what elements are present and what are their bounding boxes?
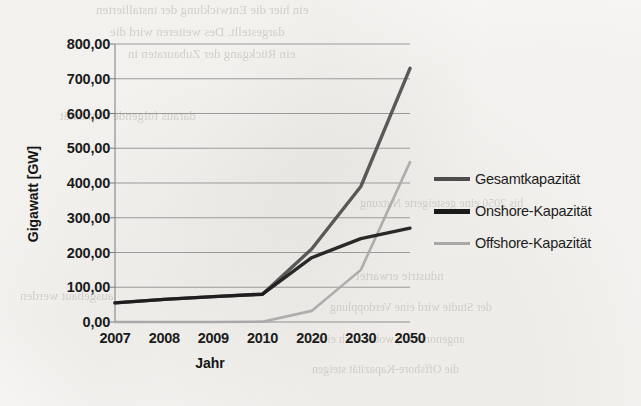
- scanned-page: ein hier die Entwicklung der installiert…: [0, 0, 641, 406]
- y-axis-tick-label: 300,00: [0, 210, 110, 226]
- x-axis-tick-label: 2009: [186, 330, 240, 346]
- series-line-onshore-kapazit-t: [115, 228, 410, 303]
- y-axis-tick-label: 800,00: [0, 36, 110, 52]
- legend-item: Onshore-Kapazität: [434, 195, 592, 227]
- legend-item-label: Gesamtkapazität: [475, 171, 580, 187]
- x-axis-title: Jahr: [0, 355, 420, 371]
- y-axis-tick-label: 100,00: [0, 279, 110, 295]
- legend-color-swatch: [434, 177, 470, 181]
- y-axis-tick-label: 0,00: [0, 314, 110, 330]
- x-axis-tick-label: 2030: [334, 330, 388, 346]
- y-axis-tick-label: 700,00: [0, 71, 110, 87]
- y-axis-tick-label: 400,00: [0, 175, 110, 191]
- chart-legend: GesamtkapazitätOnshore-KapazitätOffshore…: [434, 163, 592, 259]
- y-axis-title: Gigawatt [GW]: [25, 114, 41, 274]
- y-axis-tick-label: 600,00: [0, 106, 110, 122]
- legend-item-label: Offshore-Kapazität: [475, 235, 591, 251]
- legend-item: Offshore-Kapazität: [434, 227, 592, 259]
- y-axis-tick-label: 200,00: [0, 245, 110, 261]
- series-line-offshore-kapazit-t: [115, 162, 410, 322]
- legend-item-label: Onshore-Kapazität: [475, 203, 592, 219]
- legend-color-swatch: [434, 209, 470, 214]
- wind-capacity-line-chart: 800,00700,00600,00500,00400,00300,00200,…: [0, 0, 641, 406]
- legend-color-swatch: [434, 242, 470, 245]
- series-line-gesamtkapazit-t: [115, 68, 410, 303]
- x-axis-tick-label: 2020: [285, 330, 339, 346]
- y-axis-tick-label: 500,00: [0, 140, 110, 156]
- x-axis-tick-label: 2050: [383, 330, 437, 346]
- legend-item: Gesamtkapazität: [434, 163, 592, 195]
- x-axis-tick-label: 2008: [137, 330, 191, 346]
- x-axis-tick-label: 2007: [88, 330, 142, 346]
- x-axis-tick-label: 2010: [236, 330, 290, 346]
